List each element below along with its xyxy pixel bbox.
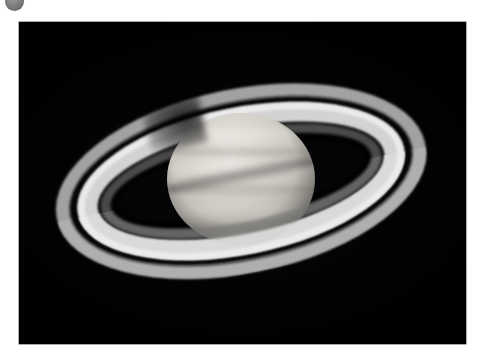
avatar-badge-icon[interactable] [5, 0, 24, 11]
saturn-photo[interactable]: Telescopic photograph of the planet Satu… [19, 22, 466, 344]
page-canvas: Telescopic photograph of the planet Satu… [0, 0, 484, 361]
